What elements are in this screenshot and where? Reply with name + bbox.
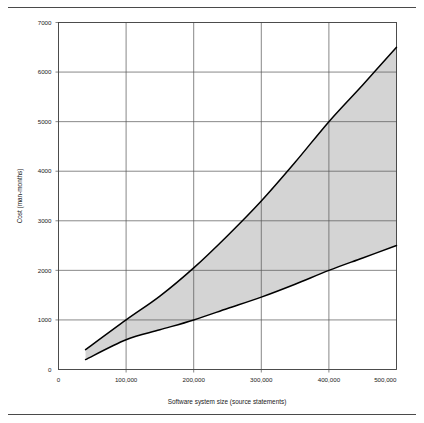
x-tick-label: 300,000 [250, 376, 273, 383]
y-tick-label: 1000 [38, 316, 52, 323]
y-tick-label: 0 [48, 366, 52, 373]
y-tick-label: 7000 [38, 19, 52, 26]
x-tick-label: 500,000 [374, 376, 397, 383]
y-tick-label: 3000 [38, 217, 52, 224]
y-tick-label: 2000 [38, 267, 52, 274]
x-tick-label: 200,000 [183, 376, 206, 383]
y-tick-label: 4000 [38, 167, 52, 174]
y-axis-title: Cost (man-months) [16, 169, 24, 224]
cost-vs-size-chart: 0100,000200,000300,000400,000500,000 010… [0, 0, 424, 423]
cost-uncertainty-band [86, 47, 397, 359]
y-tick-label: 5000 [38, 118, 52, 125]
x-tick-label: 0 [57, 376, 61, 383]
x-axis-ticks: 0100,000200,000300,000400,000500,000 [57, 370, 397, 383]
x-tick-label: 100,000 [115, 376, 138, 383]
y-tick-label: 6000 [38, 68, 52, 75]
x-tick-label: 400,000 [318, 376, 341, 383]
y-axis-ticks: 01000200030004000500060007000 [38, 19, 59, 373]
x-axis-title: Software system size (source statements) [168, 398, 287, 406]
figure-container: 0100,000200,000300,000400,000500,000 010… [0, 0, 424, 423]
